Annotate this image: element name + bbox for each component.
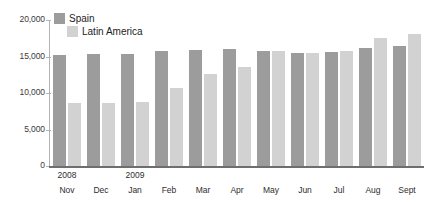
bar-spain-nov [53, 55, 67, 166]
x-axis-year-label: 2009 [118, 170, 152, 180]
bar-chart: 05,00010,00015,00020,000 Nov2008DecJan20… [0, 0, 428, 207]
bar-spain-aug [359, 48, 373, 166]
legend-label-spain: Spain [69, 13, 95, 24]
x-axis-month-label: Jan [118, 185, 152, 195]
bar-latin-america-aug [374, 38, 388, 166]
bar-spain-jan [121, 54, 135, 166]
bar-group [186, 20, 220, 166]
bar-spain-sept [393, 46, 407, 166]
legend-label-latin-america: Latin America [82, 26, 143, 37]
bar-group [220, 20, 254, 166]
bar-spain-may [257, 51, 271, 166]
bar-group [50, 20, 84, 166]
bar-spain-jul [325, 52, 339, 166]
bar-latin-america-dec [102, 103, 116, 166]
bar-spain-mar [189, 50, 203, 166]
bar-group [356, 20, 390, 166]
x-axis-month-label: Mar [186, 185, 220, 195]
y-axis-tick-label: 15,000 [20, 51, 45, 61]
x-axis-label-group: Nov2008DecJan2009FebMarAprMayJunJulAugSe… [50, 168, 424, 207]
x-axis-year-label: 2008 [50, 170, 84, 180]
x-axis-month-label: Aug [356, 185, 390, 195]
bar-latin-america-jul [340, 51, 354, 166]
bar-spain-apr [223, 49, 237, 166]
y-axis-tick-label: 0 [40, 160, 45, 170]
plot-area [50, 20, 424, 166]
x-axis-month-label: Jul [322, 185, 356, 195]
x-axis-month-label: Jun [288, 185, 322, 195]
x-axis-month-label: Feb [152, 185, 186, 195]
bar-latin-america-jan [136, 102, 150, 166]
bar-latin-america-sept [408, 34, 422, 166]
bar-latin-america-nov [68, 103, 82, 167]
legend-item-latin-america: Latin America [67, 25, 143, 38]
bar-group [390, 20, 424, 166]
bar-group [84, 20, 118, 166]
y-axis-tick-label: 20,000 [20, 14, 45, 24]
legend-swatch-icon-spain [54, 13, 65, 24]
bar-group [288, 20, 322, 166]
chart-legend: Spain Latin America [54, 12, 143, 38]
x-axis-month-label: Apr [220, 185, 254, 195]
bar-latin-america-mar [204, 74, 218, 166]
x-axis-month-label: Nov [50, 185, 84, 195]
x-axis-month-label: May [254, 185, 288, 195]
bar-latin-america-feb [170, 88, 184, 166]
legend-swatch-icon-latin-america [67, 26, 78, 37]
x-axis-month-label: Dec [84, 185, 118, 195]
bar-latin-america-jun [306, 53, 320, 166]
bar-latin-america-apr [238, 67, 252, 166]
legend-item-spain: Spain [54, 12, 143, 25]
bar-group [322, 20, 356, 166]
bar-spain-dec [87, 54, 101, 166]
bar-group [152, 20, 186, 166]
bar-group [254, 20, 288, 166]
bar-spain-feb [155, 51, 169, 166]
bar-spain-jun [291, 53, 305, 166]
x-axis-month-label: Sept [390, 185, 424, 195]
y-axis-tick-label: 5,000 [24, 124, 45, 134]
bar-latin-america-may [272, 51, 286, 166]
bar-group [118, 20, 152, 166]
y-axis-tick-label: 10,000 [20, 87, 45, 97]
